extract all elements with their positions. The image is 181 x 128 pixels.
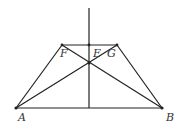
label-e: E [92,47,101,60]
point-b [160,106,163,109]
label-g: G [107,47,116,60]
label-b: B [165,111,174,124]
point-e [88,44,91,47]
label-f: F [59,47,68,60]
label-a: A [17,111,26,124]
point-f [61,44,64,47]
point-intersection [87,61,90,64]
point-g [116,44,119,47]
segment-bg [117,45,162,108]
point-a [14,106,17,109]
segment-af [16,45,62,108]
geometry-diagram: A B F E G [0,0,181,128]
